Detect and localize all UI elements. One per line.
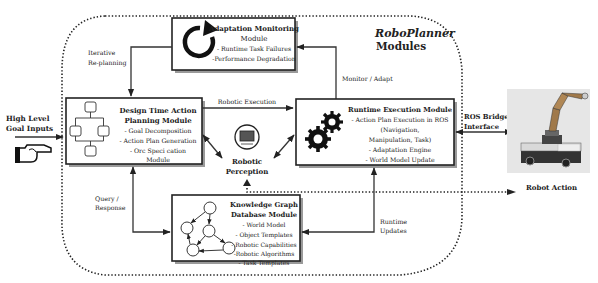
svg-text:- Runtime Task Failures: - Runtime Task Failures (217, 45, 291, 52)
svg-text:Runtime: Runtime (380, 218, 407, 225)
svg-text:-Robotic Algorithms: -Robotic Algorithms (234, 250, 295, 258)
svg-text:- Adaptation Engine: - Adaptation Engine (369, 146, 432, 154)
svg-text:Query /: Query / (95, 195, 120, 203)
svg-text:Module: Module (241, 35, 268, 43)
goal-inputs-label: High Level (6, 114, 50, 123)
svg-text:Runtime Execution Module: Runtime Execution Module (348, 106, 453, 114)
svg-text:- World Model: - World Model (243, 221, 286, 228)
svg-text:Design Time Action: Design Time Action (119, 106, 196, 115)
pointing-hand-icon (15, 145, 51, 163)
svg-text:- Action Plan Execution in ROS: - Action Plan Execution in ROS (351, 116, 448, 123)
svg-text:ROS Bridge: ROS Bridge (464, 113, 509, 121)
svg-text:Knowledge Graph: Knowledge Graph (230, 201, 298, 209)
svg-text:-Performance Degradation: -Performance Degradation (212, 55, 295, 63)
svg-text:Interface: Interface (464, 123, 500, 131)
svg-text:Robotic Execution: Robotic Execution (218, 98, 276, 105)
svg-text:- Orc Speci cation: - Orc Speci cation (130, 147, 186, 155)
robotic-perception: Robotic Perception (226, 125, 268, 176)
svg-text:Adaptation Monitoring: Adaptation Monitoring (208, 24, 299, 33)
svg-text:Manipulation, Task): Manipulation, Task) (369, 136, 431, 144)
svg-text:- Task Templates: - Task Templates (239, 259, 290, 267)
svg-text:Response: Response (95, 204, 126, 212)
camera-sensor-icon (235, 125, 259, 149)
robot-action-label: Robot Action (526, 183, 577, 192)
svg-text:- Object Templates: - Object Templates (236, 231, 293, 239)
svg-text:Goal Inputs: Goal Inputs (6, 124, 53, 133)
roboplanner-architecture-diagram: RoboPlanner Modules Adaptation Monitorin… (0, 0, 598, 283)
svg-text:Module: Module (146, 156, 170, 163)
runtime-execution-module: Runtime Execution Module - Action Plan E… (296, 99, 457, 168)
diagram-subtitle: Modules (376, 40, 426, 52)
design-time-planning-module: Design Time Action Planning Module - Goa… (66, 98, 205, 167)
diagram-title: RoboPlanner (374, 27, 456, 40)
svg-text:- Goal Decomposition: - Goal Decomposition (124, 127, 191, 135)
svg-text:Planning Module: Planning Module (124, 116, 192, 125)
svg-text:Re-planning: Re-planning (88, 59, 127, 67)
svg-text:Iterative: Iterative (88, 49, 116, 56)
svg-text:- Robotic Capabilities: - Robotic Capabilities (231, 241, 296, 249)
knowledge-graph-module: Knowledge Graph Database Module - World … (172, 195, 303, 267)
adaptation-monitoring-module: Adaptation Monitoring Module - Runtime T… (172, 18, 299, 73)
svg-text:Robotic: Robotic (232, 157, 262, 166)
svg-text:Monitor / Adapt: Monitor / Adapt (342, 75, 393, 83)
svg-text:- World Model Update: - World Model Update (365, 156, 435, 164)
svg-text:- Action Plan Generation: - Action Plan Generation (120, 137, 197, 144)
svg-text:Perception: Perception (226, 167, 268, 176)
svg-text:Updates: Updates (380, 227, 407, 235)
svg-text:(Navigation,: (Navigation, (381, 126, 420, 134)
svg-text:Database Module: Database Module (231, 211, 298, 219)
mobile-manipulator-robot-photo (507, 89, 590, 173)
